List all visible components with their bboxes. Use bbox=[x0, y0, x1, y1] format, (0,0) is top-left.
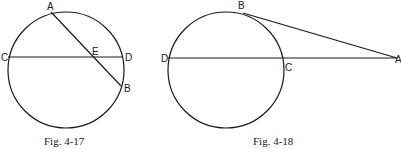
label-d: D bbox=[161, 53, 168, 64]
label-b: B bbox=[124, 83, 131, 94]
label-b: B bbox=[238, 0, 245, 11]
label-d: D bbox=[125, 52, 132, 63]
label-a: A bbox=[47, 1, 54, 12]
circle bbox=[168, 12, 284, 128]
caption: Fig. 4-17 bbox=[44, 135, 85, 147]
label-c: C bbox=[285, 62, 292, 73]
label-c: C bbox=[1, 52, 8, 63]
caption: Fig. 4-18 bbox=[253, 135, 294, 147]
tangent-ab bbox=[243, 13, 397, 58]
figure-4-18: B D C A Fig. 4-18 bbox=[161, 0, 401, 147]
label-e: E bbox=[92, 46, 99, 57]
chord-ab bbox=[51, 12, 121, 86]
figure-4-17: A C E D B Fig. 4-17 bbox=[1, 1, 132, 147]
label-a: A bbox=[395, 54, 401, 65]
diagram-canvas: A C E D B Fig. 4-17 B D C A Fig. 4-18 bbox=[0, 0, 401, 149]
